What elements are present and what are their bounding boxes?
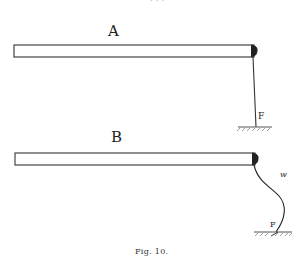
rod-b	[15, 153, 255, 165]
cut-off-text: · · ·	[150, 0, 164, 6]
panel-a-label: A	[108, 22, 119, 40]
panel-a-drawing	[14, 45, 272, 131]
rod-b-end-cap	[252, 153, 258, 165]
panel-b-drawing	[15, 153, 292, 236]
cord-a	[253, 57, 256, 127]
diagram-svg	[0, 0, 302, 265]
panel-b-anchor-label: F	[270, 220, 276, 229]
figure-10: · · ·	[0, 0, 302, 265]
figure-caption: Fig. 10.	[135, 247, 168, 256]
ground-a-hatching	[237, 128, 270, 131]
rod-a	[14, 45, 254, 57]
panel-a-anchor-label: F	[258, 111, 264, 121]
panel-b-label: B	[111, 128, 122, 146]
panel-b-cord-label: w	[280, 170, 287, 179]
rod-a-end-cap	[251, 45, 257, 57]
